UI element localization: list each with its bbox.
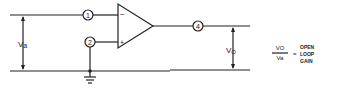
junction-dot bbox=[88, 69, 92, 73]
node-2-label: 2 bbox=[88, 39, 92, 46]
formula-equals: = bbox=[293, 51, 297, 57]
vo-label: VO bbox=[226, 46, 236, 55]
node-1-label: 1 bbox=[86, 12, 90, 19]
formula-numerator: VO bbox=[276, 45, 285, 51]
formula-line-loop: LOOP bbox=[300, 51, 315, 57]
formula-denominator: Va bbox=[277, 55, 285, 61]
open-loop-gain-diagram: 1 2 4 − + Va VO VO Va = OPEN LOOP GAIN bbox=[0, 0, 337, 91]
va-label: Va bbox=[18, 40, 27, 49]
formula-line-open: OPEN bbox=[300, 44, 315, 50]
opamp-minus: − bbox=[120, 10, 125, 19]
node-4-label: 4 bbox=[196, 23, 200, 30]
formula-line-gain: GAIN bbox=[300, 58, 313, 64]
opamp-plus: + bbox=[120, 39, 124, 46]
